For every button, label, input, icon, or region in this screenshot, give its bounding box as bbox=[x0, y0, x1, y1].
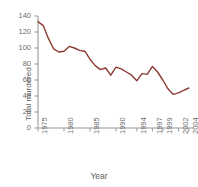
x-tick-label: 1999 bbox=[166, 117, 174, 134]
x-tick-label: 1994 bbox=[140, 117, 148, 134]
y-tick-label: 140 bbox=[0, 12, 31, 20]
y-tick-label: 120 bbox=[0, 28, 31, 36]
x-tick-label: 1990 bbox=[119, 117, 127, 134]
x-tick-label: 1975 bbox=[41, 117, 49, 134]
x-tick-label: 1985 bbox=[93, 117, 101, 134]
x-tick-label: 1980 bbox=[67, 117, 75, 134]
x-tick-label: 1997 bbox=[156, 117, 164, 134]
y-axis-label: Total murdered bbox=[24, 67, 33, 120]
x-tick-label: 2002 bbox=[182, 117, 190, 134]
data-series-line bbox=[38, 22, 189, 95]
y-tick-label: 100 bbox=[0, 44, 31, 52]
line-chart: 020406080100120140 197519801985199019941… bbox=[0, 0, 198, 187]
x-axis-label: Year bbox=[0, 171, 198, 181]
x-tick-label: 2004 bbox=[192, 117, 198, 134]
y-tick-label: 0 bbox=[0, 124, 31, 132]
